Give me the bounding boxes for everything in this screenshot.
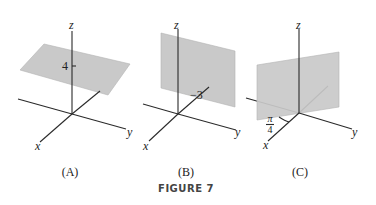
panel-label-b: (B) xyxy=(178,165,194,179)
figure-caption: FIGURE 7 xyxy=(158,183,214,194)
plane-z-equals-4 xyxy=(20,44,130,95)
y-axis-positive xyxy=(72,114,126,129)
panel-label-c: (C) xyxy=(292,165,308,179)
panel-b: z y x −3 (B) xyxy=(142,18,241,179)
figure-7: z y x 4 (A) z y x −3 (B) z y x π xyxy=(0,0,376,205)
panel-a: z y x 4 (A) xyxy=(18,18,133,179)
z-axis-label: z xyxy=(173,18,179,32)
x-axis xyxy=(149,114,178,141)
z-axis-label: z xyxy=(68,18,74,32)
y-axis-negative xyxy=(18,99,72,114)
panel-label-a: (A) xyxy=(62,165,79,179)
angle-denominator: 4 xyxy=(268,124,273,135)
y-axis-negative xyxy=(143,104,178,114)
plane-angled xyxy=(257,52,339,120)
angle-arc xyxy=(279,117,289,122)
plane-offset-label: −3 xyxy=(190,88,203,102)
x-axis-label: x xyxy=(34,139,41,153)
y-axis-positive xyxy=(178,114,236,130)
y-axis-label: y xyxy=(234,125,241,139)
y-axis-label: y xyxy=(126,125,133,139)
z-axis-label: z xyxy=(295,18,301,32)
x-axis-label: x xyxy=(262,138,269,152)
x-axis xyxy=(40,114,72,142)
plane-height-label: 4 xyxy=(62,59,68,73)
panel-c: z y x π 4 (C) xyxy=(246,18,358,179)
x-axis-negative xyxy=(72,91,100,114)
y-axis-positive xyxy=(299,113,352,129)
x-axis-label: x xyxy=(142,139,149,153)
y-axis-label: y xyxy=(351,125,358,139)
